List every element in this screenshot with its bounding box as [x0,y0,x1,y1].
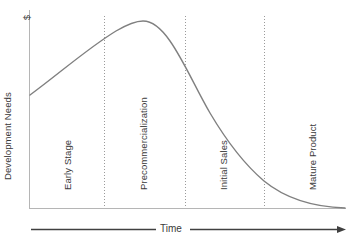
time-arrow-head [337,226,346,233]
y-axis-title: Development Needs [2,92,13,180]
chart-canvas [0,0,354,241]
stage-label-precommercialization: Precommercialization [138,97,149,190]
development-needs-curve [30,21,345,208]
stage-label-initial-sales: Initial Sales [218,140,229,190]
lifecycle-chart: $ Development Needs Early Stage Precomme… [0,0,354,241]
stage-label-early-stage: Early Stage [62,140,73,190]
y-axis-unit-label: $ [22,15,32,20]
stage-label-mature-product: Mature Product [307,124,318,190]
x-axis-title: Time [156,223,186,234]
